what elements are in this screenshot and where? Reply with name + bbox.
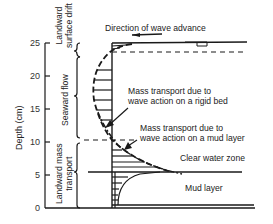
brace-surface-drift: [74, 43, 80, 57]
y-axis-title: Depth (cm): [14, 105, 24, 150]
label-landward-mass-transport: Landward mass transport: [54, 143, 74, 204]
label-seaward-flow: Seaward flow: [60, 74, 70, 126]
water-surface-line: [112, 42, 247, 43]
rigid-bed-curve: [93, 44, 172, 172]
y-tick-20: 20: [24, 71, 40, 81]
label-mud-layer: Mud layer: [185, 183, 223, 193]
y-tick-0: 0: [24, 203, 40, 213]
y-tick-15: 15: [24, 104, 40, 114]
y-tick-25: 25: [24, 38, 40, 48]
label-rigid-bed: Mass transport due to wave action on a r…: [128, 86, 228, 106]
y-tick-10: 10: [24, 137, 40, 147]
label-mud-layer-transport: Mass transport due to wave action on a m…: [140, 123, 245, 143]
y-tick-5: 5: [24, 170, 40, 180]
label-landward-surface-drift: Landward surface drift: [54, 3, 74, 48]
label-clear-water-zone: Clear water zone: [180, 153, 245, 163]
label-direction-of-wave-advance: Direction of wave advance: [105, 23, 206, 33]
brace-landward-transport: [74, 143, 80, 208]
diagram-canvas: [0, 0, 273, 224]
brace-seaward-flow: [74, 57, 80, 138]
